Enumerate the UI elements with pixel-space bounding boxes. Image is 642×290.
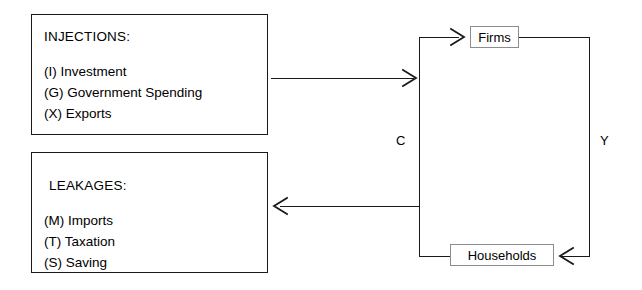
flow-top-right-segment (519, 37, 590, 38)
firms-node: Firms (470, 26, 519, 48)
firms-inflow-arrow-right-icon (446, 27, 466, 47)
flow-left-vertical-line (419, 37, 420, 256)
flow-bottom-left-segment (419, 256, 451, 257)
households-node: Households (450, 244, 554, 266)
leakages-heading: LEAKAGES: (49, 178, 127, 194)
leakages-item-imports: (M) Imports (44, 210, 115, 231)
flow-right-vertical-line (589, 37, 590, 256)
leakages-arrow-left-icon (272, 196, 292, 216)
injections-heading: INJECTIONS: (44, 29, 130, 45)
households-label: Households (468, 248, 537, 263)
injections-item-government-spending: (G) Government Spending (44, 82, 202, 103)
firms-label: Firms (478, 30, 511, 45)
leakages-box: LEAKAGES: (M) Imports (T) Taxation (S) S… (31, 152, 268, 273)
injections-connector-line (271, 78, 414, 79)
households-inflow-arrow-left-icon (558, 246, 578, 266)
income-flow-label: Y (600, 133, 609, 148)
injections-box: INJECTIONS: (I) Investment (G) Governmen… (31, 14, 268, 135)
leakages-connector-line (280, 206, 419, 207)
diagram-canvas: INJECTIONS: (I) Investment (G) Governmen… (0, 0, 642, 290)
leakages-item-list: (M) Imports (T) Taxation (S) Saving (44, 210, 115, 273)
injections-arrow-right-icon (398, 68, 418, 88)
leakages-item-saving: (S) Saving (44, 252, 115, 273)
injections-item-exports: (X) Exports (44, 103, 202, 124)
injections-item-list: (I) Investment (G) Government Spending (… (44, 61, 202, 124)
injections-item-investment: (I) Investment (44, 61, 202, 82)
leakages-item-taxation: (T) Taxation (44, 231, 115, 252)
consumption-flow-label: C (396, 133, 405, 148)
